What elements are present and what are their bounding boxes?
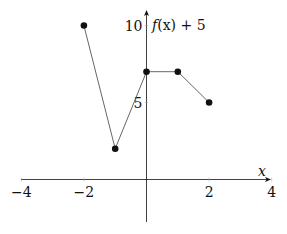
axes — [21, 10, 271, 222]
x-tick-label: 4 — [267, 184, 276, 200]
data-point-marker — [143, 68, 150, 75]
ticks: −4−224510 — [11, 18, 276, 200]
x-tick-label: −4 — [11, 184, 32, 200]
y-axis-label-rest: (x) + 5 — [157, 17, 205, 33]
y-tick-label: 5 — [134, 95, 143, 111]
x-tick-label: 2 — [205, 184, 214, 200]
y-axis-label: f(x) + 5 — [151, 17, 206, 33]
data-point-marker — [206, 99, 213, 106]
data-point-marker — [112, 145, 119, 152]
y-tick-label: 10 — [125, 18, 143, 34]
chart: −4−224510 x f(x) + 5 — [0, 0, 287, 234]
x-axis-label: x — [258, 163, 266, 179]
data-point-marker — [175, 68, 182, 75]
data-point-marker — [81, 22, 88, 29]
x-tick-label: −2 — [74, 184, 95, 200]
